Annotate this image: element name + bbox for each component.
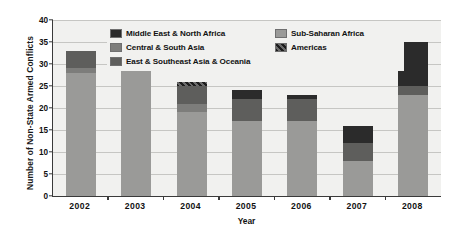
bar-2007[interactable] — [343, 126, 373, 196]
bar-segment — [66, 51, 96, 69]
y-axis-tick-mark — [49, 173, 53, 174]
bar-segment — [177, 86, 207, 104]
y-axis-tick-mark — [49, 107, 53, 108]
legend-label-east-southeast-asia-oceania: East & Southeast Asia & Oceania — [126, 57, 250, 66]
y-axis-tick-label: 5 — [43, 170, 48, 179]
stacked-bar-chart: Number of Non-State Armed Conflicts 0510… — [0, 0, 457, 239]
legend-swatch-middle-east-north-africa — [110, 29, 122, 38]
legend-label-central-south-asia: Central & South Asia — [126, 43, 204, 52]
legend-label-middle-east-north-africa: Middle East & North Africa — [126, 29, 225, 38]
y-axis-tick-mark — [49, 63, 53, 64]
bar-segment — [287, 99, 317, 121]
y-axis-tick-mark — [49, 19, 53, 20]
bar-2002[interactable] — [66, 51, 96, 196]
y-axis-tick-mark — [49, 195, 53, 196]
x-axis-tick-mark — [274, 196, 275, 200]
legend-item-middle-east-north-africa: Middle East & North Africa — [110, 29, 275, 38]
y-axis-tick-label: 10 — [39, 148, 48, 157]
legend-swatch-east-southeast-asia-oceania — [110, 57, 122, 66]
x-axis-tick-mark — [329, 196, 330, 200]
x-axis-tick-label-2008: 2008 — [382, 201, 442, 211]
legend-label-americas: Americas — [291, 43, 327, 52]
y-axis-tick-mark — [49, 129, 53, 130]
x-axis-tick-label-2003: 2003 — [105, 201, 165, 211]
legend-item-sub-saharan-africa: Sub-Saharan Africa — [275, 29, 402, 38]
y-axis-tick-label: 30 — [39, 60, 48, 69]
gridline — [53, 20, 441, 21]
bar-segment — [343, 126, 373, 144]
bar-segment — [232, 99, 262, 121]
legend-item-central-south-asia: Central & South Asia — [110, 43, 275, 52]
bar-segment — [177, 104, 207, 113]
bar-2006[interactable] — [287, 95, 317, 196]
x-axis-tick-mark — [385, 196, 386, 200]
bar-segment — [398, 95, 428, 196]
y-axis-tick-label: 35 — [39, 38, 48, 47]
bar-segment — [343, 143, 373, 161]
x-axis-title: Year — [52, 216, 441, 226]
bar-segment — [121, 68, 151, 196]
y-axis-tick-mark — [49, 151, 53, 152]
x-axis-tick-label-2005: 2005 — [216, 201, 276, 211]
legend-label-sub-saharan-africa: Sub-Saharan Africa — [291, 29, 364, 38]
x-axis-tick-label-2007: 2007 — [327, 201, 387, 211]
bar-2004[interactable] — [177, 82, 207, 196]
y-axis-tick-mark — [49, 41, 53, 42]
bar-segment — [343, 161, 373, 196]
x-axis-tick-label-2002: 2002 — [50, 201, 110, 211]
bar-segment — [177, 112, 207, 196]
bar-segment — [398, 86, 428, 95]
chart-legend: Middle East & North Africa Sub-Saharan A… — [107, 23, 404, 71]
x-axis-tick-mark — [107, 196, 108, 200]
y-axis-tick-label: 0 — [43, 192, 48, 201]
y-axis-tick-mark — [49, 85, 53, 86]
bar-segment — [232, 121, 262, 196]
bar-segment — [287, 121, 317, 196]
x-axis-tick-label-2004: 2004 — [161, 201, 221, 211]
x-axis-tick-mark — [218, 196, 219, 200]
y-axis-tick-label: 15 — [39, 126, 48, 135]
legend-item-americas: Americas — [275, 43, 402, 52]
legend-item-east-southeast-asia-oceania: East & Southeast Asia & Oceania — [110, 57, 275, 66]
legend-swatch-sub-saharan-africa — [275, 29, 287, 38]
legend-swatch-americas — [275, 43, 287, 52]
bar-segment — [232, 90, 262, 99]
gridline — [53, 86, 441, 87]
y-axis-tick-label: 25 — [39, 82, 48, 91]
x-axis-tick-label-2006: 2006 — [271, 201, 331, 211]
bar-2005[interactable] — [232, 90, 262, 196]
bar-segment — [66, 73, 96, 196]
y-axis-title: Number of Non-State Armed Conflicts — [25, 23, 35, 203]
x-axis-tick-mark — [163, 196, 164, 200]
legend-swatch-central-south-asia — [110, 43, 122, 52]
y-axis-tick-label: 40 — [39, 16, 48, 25]
y-axis-tick-label: 20 — [39, 104, 48, 113]
